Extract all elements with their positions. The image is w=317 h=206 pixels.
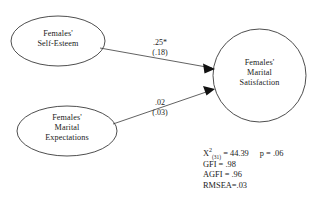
marital-expectations-line3: Expectations <box>45 133 89 142</box>
fit-stat-rmsea: RMSEA=.03 <box>203 181 283 192</box>
path-coefficient-top: .25* (.18) <box>138 38 182 58</box>
fit-stat-p-value: p = .06 <box>249 149 284 158</box>
fit-stat-gfi: GFI = .98 <box>203 160 283 171</box>
chi-square-symbol: X <box>203 149 209 158</box>
path-estimate-top: .25* <box>138 38 182 48</box>
node-label-marital-satisfaction: Females' Marital Satisfaction <box>213 58 306 89</box>
fit-statistics-block: X2(31) = 44.39p = .06 GFI = .98 AGFI = .… <box>203 149 283 191</box>
node-label-self-esteem: Females' Self-Esteem <box>11 29 105 49</box>
self-esteem-line2: Self-Esteem <box>37 39 78 48</box>
self-esteem-line1: Females' <box>43 29 73 38</box>
chi-square-df: (31) <box>212 154 221 160</box>
chi-square-value: = 44.39 <box>221 149 249 158</box>
fit-stat-chi-square: X2(31) = 44.39p = .06 <box>203 149 283 160</box>
path-diagram: Females' Self-Esteem Females' Marital Ex… <box>0 0 317 206</box>
marital-expectations-line2: Marital <box>55 123 80 132</box>
marital-expectations-line1: Females' <box>52 113 82 122</box>
path-standard-error-bottom: (.03) <box>138 108 182 118</box>
path-estimate-bottom: .02 <box>138 98 182 108</box>
chi-square-superscript: 2 <box>209 147 212 153</box>
marital-satisfaction-line2: Marital <box>247 68 272 77</box>
fit-stat-agfi: AGFI = .96 <box>203 170 283 181</box>
marital-satisfaction-line1: Females' <box>245 58 275 67</box>
marital-satisfaction-line3: Satisfaction <box>240 78 280 87</box>
path-coefficient-bottom: .02 (.03) <box>138 98 182 118</box>
node-label-marital-expectations: Females' Marital Expectations <box>17 113 117 144</box>
path-standard-error-top: (.18) <box>138 48 182 58</box>
